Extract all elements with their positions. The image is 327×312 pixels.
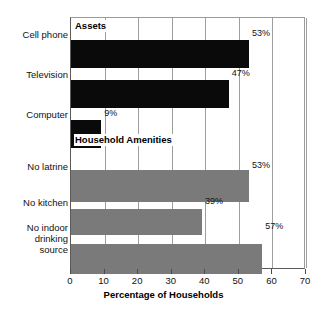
- tick-label-20: 20: [125, 276, 149, 286]
- section-header: Household Amenities: [74, 134, 174, 146]
- tick-label-50: 50: [226, 276, 250, 286]
- bar: [71, 244, 262, 274]
- bar-value-label: 47%: [232, 69, 250, 78]
- tick-mark-30: [171, 269, 172, 274]
- bar-value-label: 53%: [252, 161, 270, 170]
- bar-value-label: 39%: [205, 197, 223, 206]
- plot-area: AssetsHousehold Amenities: [70, 17, 305, 269]
- bar-value-label: 53%: [252, 29, 270, 38]
- bar: [71, 209, 202, 235]
- bar: [71, 40, 249, 68]
- tick-mark-10: [104, 269, 105, 274]
- tick-label-70: 70: [293, 276, 317, 286]
- tick-label-10: 10: [92, 276, 116, 286]
- tick-label-40: 40: [192, 276, 216, 286]
- tick-label-60: 60: [259, 276, 283, 286]
- tick-mark-70: [305, 269, 306, 274]
- bar: [71, 80, 229, 108]
- x-axis-title: Percentage of Households: [0, 290, 327, 300]
- category-label: Cell phone: [23, 29, 68, 40]
- category-label: Television: [26, 69, 68, 80]
- tick-mark-40: [204, 269, 205, 274]
- category-label: No kitchen: [23, 197, 68, 208]
- tick-label-0: 0: [58, 276, 82, 286]
- tick-mark-60: [271, 269, 272, 274]
- tick-mark-0: [70, 269, 71, 274]
- tick-label-30: 30: [159, 276, 183, 286]
- gridline-70: [306, 18, 307, 268]
- bar-value-label: 9%: [104, 109, 117, 118]
- category-label: Computer: [26, 109, 68, 120]
- category-label: No indoor drinking source: [27, 222, 68, 255]
- tick-mark-20: [137, 269, 138, 274]
- category-label: No latrine: [27, 161, 68, 172]
- bar-chart: AssetsHousehold Amenities 53%47%9%53%39%…: [0, 0, 327, 312]
- bar-value-label: 57%: [265, 222, 283, 231]
- tick-mark-50: [238, 269, 239, 274]
- section-header: Assets: [74, 20, 108, 32]
